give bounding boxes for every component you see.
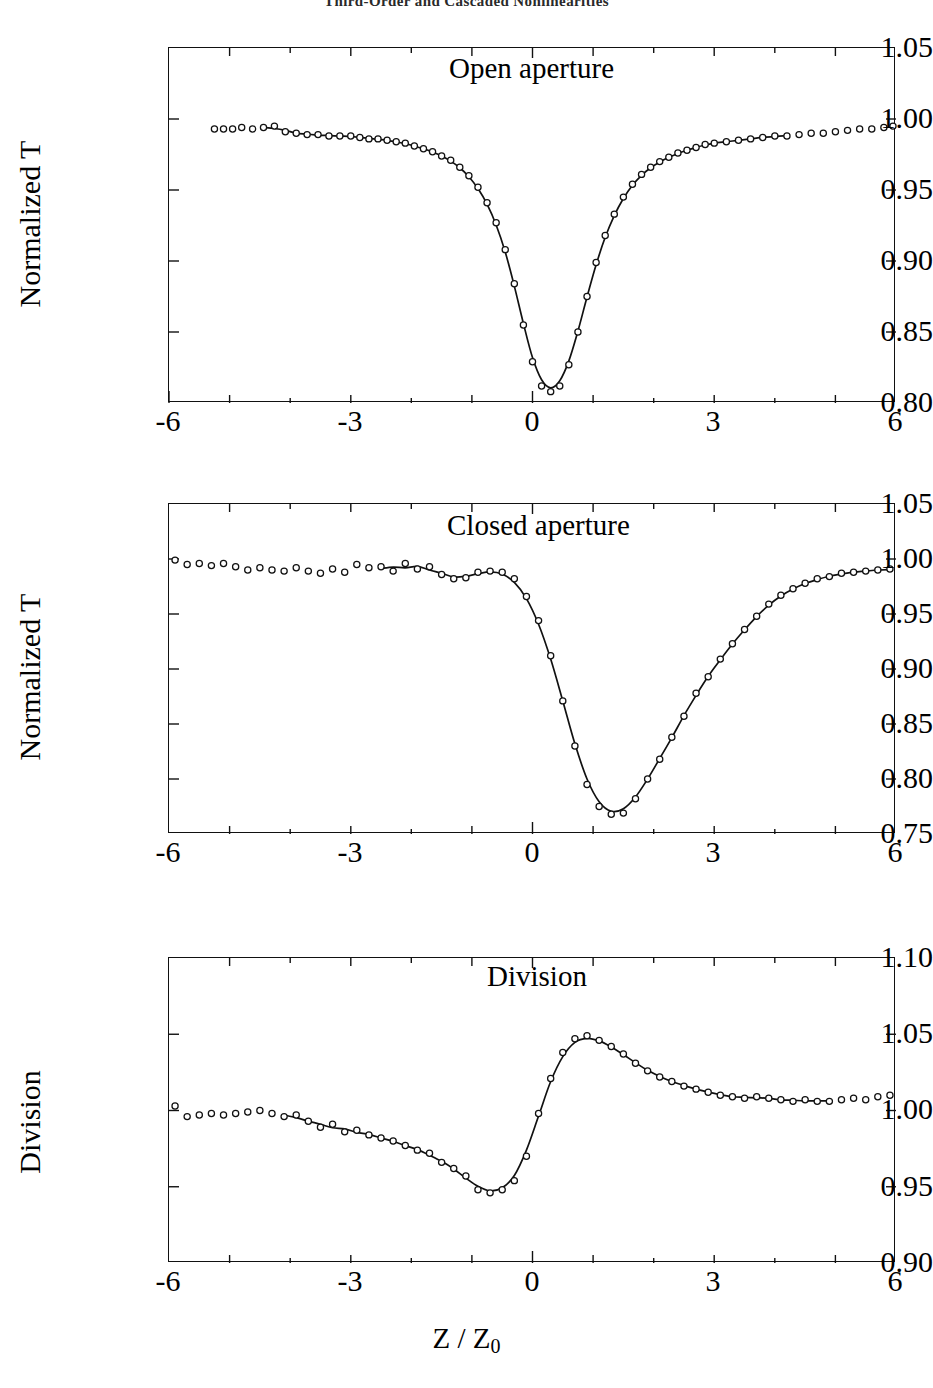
panel-open-aperture-xtick-1: -3 (320, 406, 380, 436)
panel-closed-aperture-ytick-1: 1.00 (778, 543, 933, 573)
panel-open-aperture-ytick-0: 1.05 (778, 32, 933, 62)
panel-closed-aperture-xtick-2: 0 (502, 837, 562, 867)
panel-open-aperture-xtick-2: 0 (502, 406, 562, 436)
x-axis-title-subscript: 0 (491, 1335, 501, 1357)
panel-open-aperture-ylabel: Normalized T (13, 109, 47, 339)
panel-closed-aperture-ytick-3: 0.90 (778, 653, 933, 683)
figure-page: Third-Order and Cascaded Nonlinearities … (0, 0, 933, 1388)
panel-closed-aperture-ytick-0: 1.05 (778, 488, 933, 518)
panel-open-aperture-ytick-1: 1.00 (778, 103, 933, 133)
panel-open-aperture-plot (168, 47, 895, 402)
panel-division-xtick-4: 6 (865, 1266, 925, 1296)
panel-division-xtick-0: -6 (138, 1266, 198, 1296)
panel-division: Division (0, 915, 933, 1388)
panel-closed-aperture-ytick-5: 0.80 (778, 763, 933, 793)
panel-open-aperture-xtick-0: -6 (138, 406, 198, 436)
panel-division-title: Division (487, 960, 587, 993)
panel-open-aperture-xtick-4: 6 (865, 406, 925, 436)
panel-open-aperture-ytick-2: 0.95 (778, 174, 933, 204)
panel-open-aperture-xtick-3: 3 (683, 406, 743, 436)
panel-division-xtick-3: 3 (683, 1266, 743, 1296)
panel-open-aperture-ytick-4: 0.85 (778, 316, 933, 346)
panel-division-xtick-2: 0 (502, 1266, 562, 1296)
panel-closed-aperture-title: Closed aperture (447, 509, 630, 542)
x-axis-title-text: Z / Z (433, 1322, 491, 1354)
panel-division-fit (284, 1038, 829, 1191)
panel-open-aperture-fit (264, 128, 787, 388)
panel-open-aperture-title: Open aperture (449, 52, 614, 85)
panel-division-ytick-1: 1.05 (778, 1018, 933, 1048)
panel-open-aperture-svg (169, 48, 896, 403)
panel-closed-aperture: Normalized T (0, 455, 933, 915)
panel-closed-aperture-ylabel: Normalized T (13, 562, 47, 792)
panel-division-ytick-3: 0.95 (778, 1171, 933, 1201)
panel-division-ylabel: Division (13, 1042, 47, 1202)
panel-division-ytick-0: 1.10 (778, 942, 933, 972)
panel-open-aperture-ytick-3: 0.90 (778, 245, 933, 275)
x-axis-title: Z / Z0 (0, 1322, 933, 1355)
panel-closed-aperture-xtick-3: 3 (683, 837, 743, 867)
panel-closed-aperture-xtick-0: -6 (138, 837, 198, 867)
panel-closed-aperture-ytick-2: 0.95 (778, 598, 933, 628)
panel-closed-aperture-xtick-1: -3 (320, 837, 380, 867)
panel-closed-aperture-xtick-4: 6 (865, 837, 925, 867)
panel-division-xtick-1: -3 (320, 1266, 380, 1296)
panel-division-ytick-2: 1.00 (778, 1094, 933, 1124)
panel-open-aperture: Normalized T (0, 0, 933, 455)
panel-closed-aperture-ytick-4: 0.85 (778, 708, 933, 738)
